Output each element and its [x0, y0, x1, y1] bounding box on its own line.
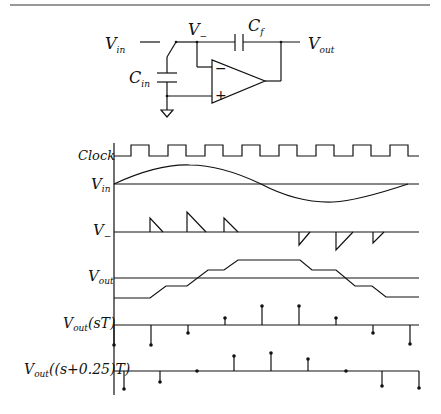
vout-row-label: Vout — [88, 267, 114, 286]
vminus-spike-6 — [373, 232, 384, 243]
switch-blade — [167, 42, 176, 57]
vminus-label: V− — [188, 20, 207, 41]
clock-waveform — [114, 145, 419, 156]
vminus-spike-5 — [336, 232, 353, 250]
vout-label: Vout — [308, 34, 335, 55]
vminus-spike-3 — [224, 218, 238, 232]
vout-waveform — [114, 260, 419, 298]
timing-diagram: Clock Vin V− Vout Vout(sT) Vout((s+0.25)… — [24, 143, 421, 395]
vminus-spike-1 — [150, 218, 163, 232]
opamp-minus-sign: − — [215, 60, 227, 76]
vminus-row-label: V− — [93, 221, 111, 241]
vin-row-label: Vin — [91, 175, 111, 194]
ground-icon — [161, 110, 173, 117]
cin-label: Cin — [129, 68, 150, 89]
clock-label: Clock — [78, 148, 115, 163]
circuit-schematic: Vin Cin V− Cf Vout − + — [105, 16, 335, 117]
vout-s025T-row-label: Vout((s+0.25)T) — [24, 361, 130, 379]
vminus-spike-2 — [187, 212, 206, 232]
vout-sT-row-label: Vout(sT) — [63, 315, 115, 333]
vminus-spike-4 — [299, 232, 310, 245]
vin-label: Vin — [105, 34, 125, 55]
cf-label: Cf — [248, 16, 265, 37]
opamp-plus-sign: + — [215, 87, 227, 103]
diagram-canvas: Vin Cin V− Cf Vout − + — [0, 0, 441, 414]
